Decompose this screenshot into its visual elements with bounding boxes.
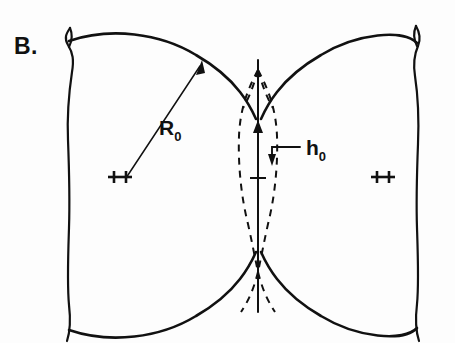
- left-lobe-bottom-arc: [69, 252, 256, 338]
- left-break-edge: [66, 28, 73, 341]
- gap-up-arrowhead: [253, 120, 263, 133]
- gap-label: h0: [306, 136, 326, 164]
- radius-label: R0: [159, 116, 181, 144]
- panel-label: B.: [14, 33, 38, 59]
- dashed-profile-right-upper: [258, 70, 277, 272]
- dashed-profile-upper-flare-left: [243, 70, 258, 108]
- gap-symbol: h: [306, 136, 319, 159]
- dashed-profile-left-upper: [239, 70, 258, 272]
- figure-panel-b: R0 h0 B.: [0, 0, 455, 343]
- radius-arrowhead: [196, 60, 205, 75]
- gap-down-arrowhead: [268, 154, 276, 166]
- radius-subscript: 0: [174, 129, 181, 144]
- right-lobe-bottom-arc: [261, 252, 417, 336]
- radius-symbol: R: [159, 116, 174, 139]
- right-break-edge: [414, 26, 420, 341]
- dashed-profile-right-lower: [258, 272, 275, 312]
- right-lobe-top-arc: [261, 35, 417, 119]
- dashed-profile-left-lower: [241, 272, 258, 312]
- right-center-marker: [371, 171, 395, 183]
- diagram-canvas: R0 h0 B.: [0, 0, 455, 343]
- left-center-marker: [108, 171, 132, 183]
- left-lobe-top-arc: [69, 33, 256, 119]
- gap-subscript: 0: [319, 149, 326, 164]
